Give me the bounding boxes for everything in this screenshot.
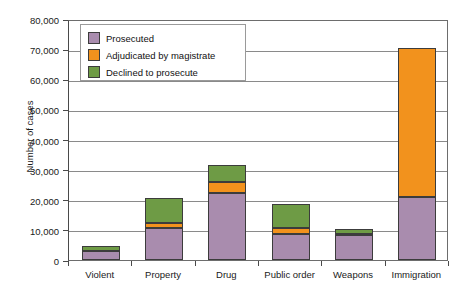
legend-swatch-icon bbox=[88, 32, 100, 44]
bar-stack-immigration[interactable] bbox=[398, 19, 436, 260]
bar-segment[interactable] bbox=[272, 204, 310, 228]
bar-segment[interactable] bbox=[208, 193, 246, 260]
bar-segment[interactable] bbox=[398, 48, 436, 197]
y-tick-label: 30,000 bbox=[5, 165, 59, 176]
gridline bbox=[69, 111, 447, 112]
x-tick-label: Public order bbox=[264, 269, 315, 280]
x-tick-label: Violent bbox=[85, 269, 114, 280]
x-tick-label: Immigration bbox=[392, 269, 442, 280]
x-tick-mark bbox=[131, 261, 132, 266]
x-tick-mark bbox=[68, 261, 69, 266]
legend-swatch-icon bbox=[88, 49, 100, 61]
y-tick-label: 0 bbox=[5, 256, 59, 267]
y-tick-label: 60,000 bbox=[5, 75, 59, 86]
legend-item[interactable]: Declined to prosecute bbox=[88, 64, 239, 80]
bar-stack-weapons[interactable] bbox=[335, 19, 373, 260]
bar-segment[interactable] bbox=[145, 223, 183, 228]
bar-segment[interactable] bbox=[335, 229, 373, 235]
legend-item[interactable]: Adjudicated by magistrate bbox=[88, 47, 239, 63]
y-tick-label: 80,000 bbox=[5, 15, 59, 26]
bar-segment[interactable] bbox=[82, 246, 120, 251]
y-tick-label: 10,000 bbox=[5, 225, 59, 236]
x-tick-mark bbox=[195, 261, 196, 266]
y-tick-label: 50,000 bbox=[5, 105, 59, 116]
chart-legend: ProsecutedAdjudicated by magistrateDecli… bbox=[80, 24, 246, 81]
bar-segment[interactable] bbox=[145, 228, 183, 260]
bar-stack-public-order[interactable] bbox=[272, 19, 310, 260]
bar-segment[interactable] bbox=[82, 251, 120, 260]
bar-segment[interactable] bbox=[272, 234, 310, 260]
legend-label: Prosecuted bbox=[106, 33, 154, 44]
y-tick-label: 70,000 bbox=[5, 45, 59, 56]
gridline bbox=[69, 231, 447, 232]
legend-label: Declined to prosecute bbox=[106, 67, 198, 78]
y-tick-label: 40,000 bbox=[5, 135, 59, 146]
bar-segment[interactable] bbox=[398, 197, 436, 260]
gridline bbox=[69, 201, 447, 202]
x-tick-label: Weapons bbox=[333, 269, 373, 280]
bar-segment[interactable] bbox=[208, 182, 246, 193]
gridline bbox=[69, 141, 447, 142]
legend-label: Adjudicated by magistrate bbox=[106, 50, 215, 61]
bar-segment[interactable] bbox=[335, 235, 373, 260]
x-tick-label: Property bbox=[145, 269, 181, 280]
gridline bbox=[69, 171, 447, 172]
x-tick-mark bbox=[258, 261, 259, 266]
chart-figure: Number of cases 010,00020,00030,00040,00… bbox=[0, 0, 462, 293]
legend-item[interactable]: Prosecuted bbox=[88, 30, 239, 46]
bar-segment[interactable] bbox=[145, 198, 183, 223]
legend-swatch-icon bbox=[88, 66, 100, 78]
bar-segment[interactable] bbox=[272, 228, 310, 235]
y-tick-label: 20,000 bbox=[5, 195, 59, 206]
x-tick-mark bbox=[448, 261, 449, 266]
x-tick-mark bbox=[321, 261, 322, 266]
x-tick-label: Drug bbox=[216, 269, 237, 280]
x-tick-mark bbox=[385, 261, 386, 266]
bar-segment[interactable] bbox=[208, 165, 246, 182]
